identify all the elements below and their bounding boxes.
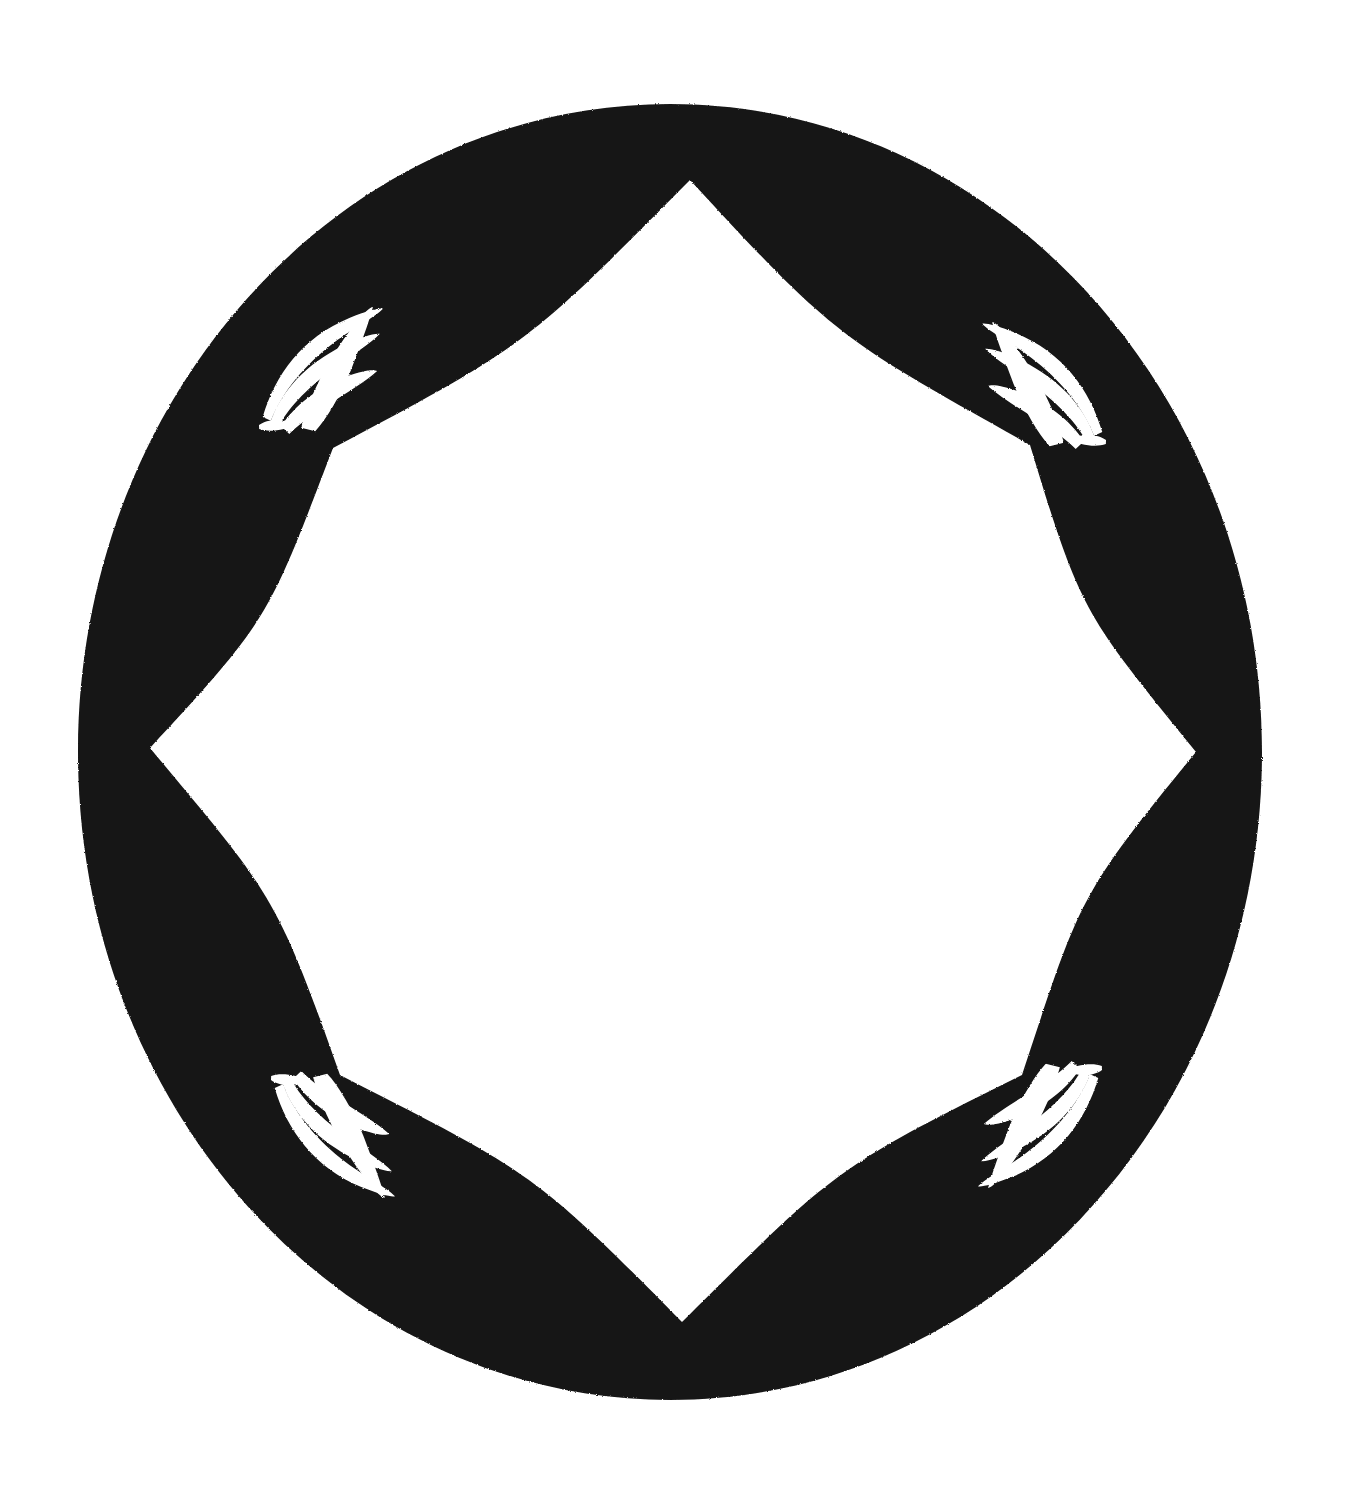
ornamental-frame-graphic: [0, 0, 1351, 1490]
artboard: [0, 0, 1351, 1490]
paper-background: [0, 0, 1351, 1490]
